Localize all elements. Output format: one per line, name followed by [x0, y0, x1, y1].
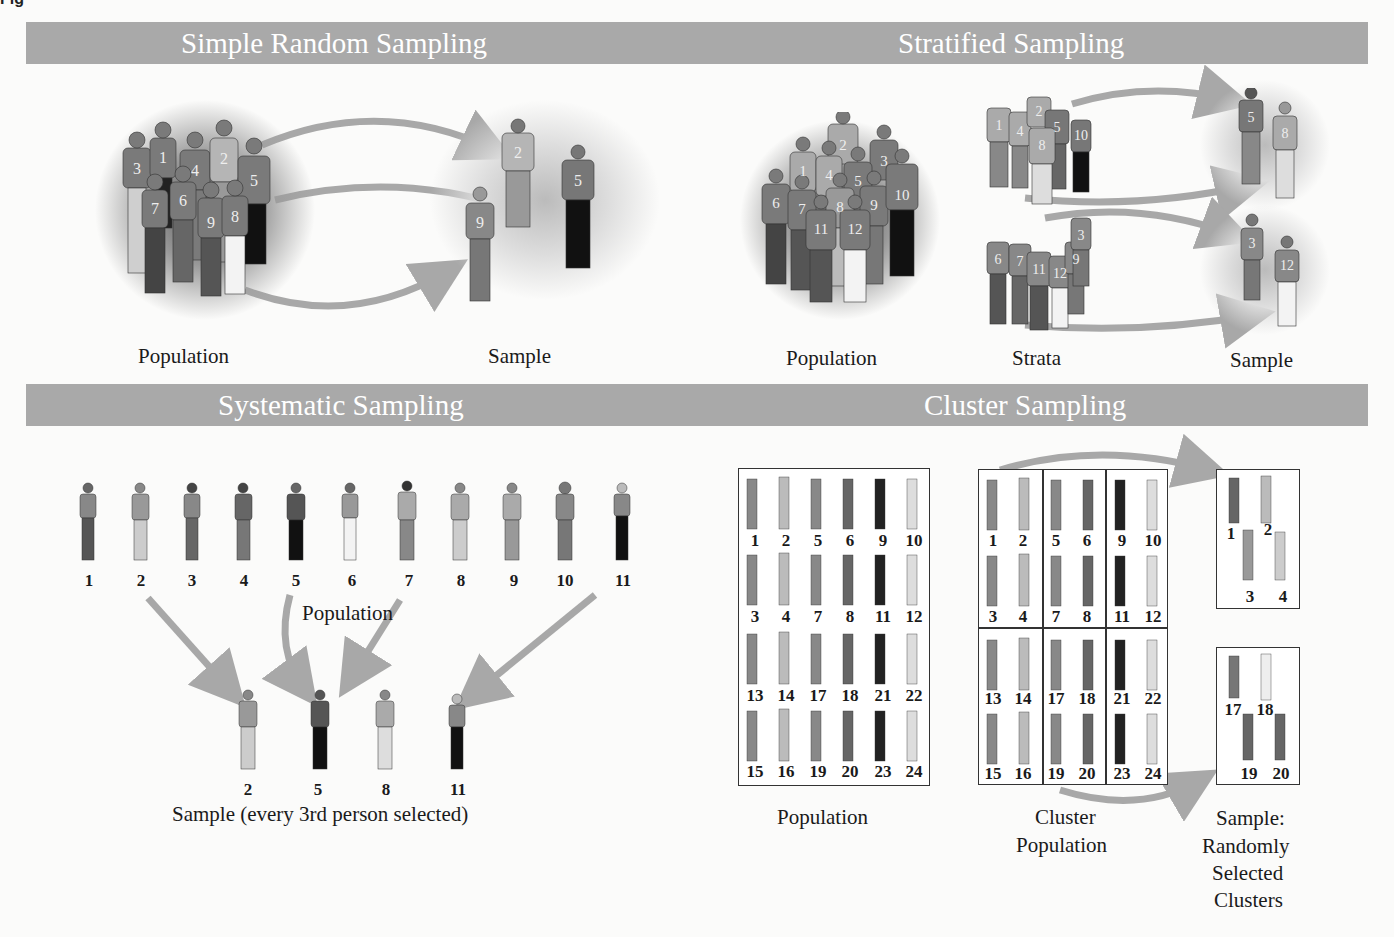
systematic-population-label: Population [302, 601, 393, 626]
systematic-number: 9 [499, 571, 529, 591]
svg-text:11: 11 [814, 221, 828, 237]
selected-number: 4 [1268, 587, 1298, 607]
svg-text:9: 9 [476, 214, 484, 231]
cluster-population-label-line1: Cluster [1035, 805, 1096, 830]
svg-text:5: 5 [854, 173, 862, 189]
svg-text:8: 8 [836, 199, 844, 215]
systematic-number: 7 [394, 571, 424, 591]
cluster-sample-label-line3: Selected [1212, 861, 1283, 886]
svg-text:1: 1 [159, 149, 167, 166]
systematic-number: 2 [126, 571, 156, 591]
svg-text:7: 7 [151, 200, 159, 217]
svg-text:10: 10 [1074, 128, 1088, 143]
svg-text:8: 8 [1039, 138, 1046, 153]
systematic-sample-number: 5 [303, 780, 333, 800]
simple-random-population-label: Population [138, 344, 229, 369]
svg-text:4: 4 [191, 162, 199, 179]
systematic-sample-icons [225, 685, 485, 775]
stratified-sample-label: Sample [1230, 348, 1293, 373]
figure-label-clipped: Fig [0, 0, 24, 8]
svg-text:2: 2 [839, 137, 847, 153]
selected-number: 20 [1266, 764, 1296, 784]
population-grid-icons [739, 469, 929, 785]
svg-text:7: 7 [1017, 254, 1024, 269]
cluster-partition-box [978, 469, 1168, 785]
systematic-sample-number: 2 [233, 780, 263, 800]
selected-number: 1 [1216, 524, 1246, 544]
svg-text:11: 11 [1032, 262, 1045, 277]
systematic-number: 8 [446, 571, 476, 591]
systematic-population-icons [70, 480, 650, 565]
stratified-strata-label: Strata [1012, 346, 1061, 371]
cluster-title: Cluster Sampling [924, 384, 1126, 426]
stratified-population-label: Population [786, 346, 877, 371]
selected-number: 2 [1253, 520, 1283, 540]
selected-number: 19 [1234, 764, 1264, 784]
svg-text:6: 6 [995, 252, 1002, 267]
cluster-sample-label-line4: Clusters [1214, 888, 1283, 913]
svg-text:8: 8 [231, 208, 239, 225]
simple-random-title: Simple Random Sampling [181, 22, 487, 64]
svg-text:4: 4 [825, 167, 833, 183]
cluster-population-box [738, 468, 930, 786]
strata-groups-icon: 1 2 4 5 8 10 3 6 7 9 11 12 [985, 92, 1100, 332]
svg-text:5: 5 [250, 172, 258, 189]
cluster-sample-label-line1: Sample: [1216, 806, 1285, 831]
systematic-number: 11 [608, 571, 638, 591]
cluster-population-label-line2: Population [1016, 833, 1107, 858]
svg-text:6: 6 [179, 192, 187, 209]
population-group-icon: 1 2 3 4 5 6 7 8 9 10 11 12 [760, 112, 925, 312]
cluster-population-label: Population [777, 805, 868, 830]
svg-text:10: 10 [895, 187, 910, 203]
systematic-sample-number: 11 [443, 780, 473, 800]
svg-text:3: 3 [880, 153, 888, 169]
svg-text:9: 9 [1073, 252, 1080, 267]
svg-text:8: 8 [1282, 126, 1289, 141]
selected-number: 17 [1218, 700, 1248, 720]
top-header-bar: Simple Random Sampling Stratified Sampli… [26, 22, 1368, 64]
svg-text:5: 5 [574, 172, 582, 189]
simple-random-sample-label: Sample [488, 344, 551, 369]
cluster-sample-label-line2: Randomly [1202, 834, 1290, 859]
svg-text:2: 2 [220, 150, 228, 167]
svg-text:1: 1 [996, 118, 1003, 133]
sample-group-icon: 2 5 9 [460, 118, 610, 303]
systematic-number: 6 [337, 571, 367, 591]
svg-text:4: 4 [1017, 124, 1024, 139]
svg-text:12: 12 [1280, 258, 1294, 273]
svg-text:1: 1 [799, 163, 807, 179]
systematic-number: 1 [74, 571, 104, 591]
svg-text:9: 9 [207, 214, 215, 231]
svg-text:3: 3 [1078, 228, 1085, 243]
svg-text:7: 7 [798, 201, 806, 217]
systematic-title: Systematic Sampling [218, 384, 464, 426]
svg-text:12: 12 [1053, 266, 1067, 281]
systematic-number: 10 [550, 571, 580, 591]
svg-text:5: 5 [1054, 120, 1061, 135]
systematic-number: 5 [281, 571, 311, 591]
svg-text:6: 6 [772, 195, 780, 211]
selected-number: 3 [1235, 587, 1265, 607]
svg-text:12: 12 [848, 221, 863, 237]
svg-text:2: 2 [1036, 104, 1043, 119]
svg-text:9: 9 [870, 197, 878, 213]
svg-text:3: 3 [1249, 236, 1256, 251]
middle-header-bar: Systematic Sampling Cluster Sampling [26, 384, 1368, 426]
population-group-icon: 3 1 4 2 5 7 6 9 8 [118, 118, 278, 308]
svg-text:3: 3 [133, 160, 141, 177]
systematic-number: 4 [229, 571, 259, 591]
svg-text:2: 2 [514, 144, 522, 161]
systematic-sample-label: Sample (every 3rd person selected) [172, 802, 468, 827]
stratified-sample-icon: 5 8 3 12 [1235, 88, 1305, 333]
selected-number: 18 [1250, 700, 1280, 720]
systematic-number: 3 [177, 571, 207, 591]
stratified-title: Stratified Sampling [898, 22, 1124, 64]
svg-text:5: 5 [1248, 110, 1255, 125]
systematic-sample-number: 8 [371, 780, 401, 800]
